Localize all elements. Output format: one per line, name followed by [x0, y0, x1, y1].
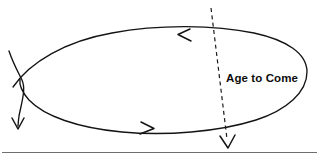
dashed-arrow-icon [220, 135, 235, 148]
loop-arrow-bottom-icon [140, 122, 154, 134]
age-to-come-label: Age to Come [226, 71, 298, 85]
loop-arrow-top-icon [178, 29, 191, 41]
diagram-canvas: Age to Come [0, 0, 319, 160]
